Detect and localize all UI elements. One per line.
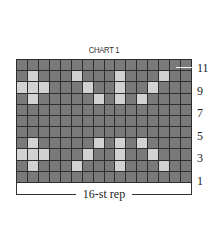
chart-cell — [170, 138, 180, 148]
chart-cell — [39, 149, 49, 159]
chart-cell — [50, 71, 60, 81]
chart-cell — [17, 127, 27, 137]
chart-cell — [28, 161, 38, 171]
chart-cell — [159, 94, 169, 104]
chart-cell — [72, 94, 82, 104]
chart-cell — [39, 116, 49, 126]
chart-cell — [72, 127, 82, 137]
chart-cell — [115, 82, 125, 92]
chart-cell — [126, 105, 136, 115]
chart-cell — [170, 127, 180, 137]
chart-cell — [83, 60, 93, 70]
chart-title: CHART 1 — [29, 45, 179, 55]
chart-cell — [28, 116, 38, 126]
row-label-9: 9 — [197, 85, 203, 97]
chart-cell — [148, 60, 158, 70]
chart-cell — [170, 161, 180, 171]
chart-cell — [50, 149, 60, 159]
chart-cell — [39, 127, 49, 137]
chart-cell — [170, 149, 180, 159]
chart-cell — [17, 138, 27, 148]
row-label-7: 7 — [197, 107, 203, 119]
chart-cell — [94, 82, 104, 92]
chart-cell — [137, 71, 147, 81]
chart-cell — [17, 94, 27, 104]
chart-cell — [159, 116, 169, 126]
chart-cell — [170, 172, 180, 182]
chart-cell — [159, 105, 169, 115]
chart-cell — [105, 82, 115, 92]
chart-cell — [61, 82, 71, 92]
chart-cell — [170, 94, 180, 104]
chart-cell — [61, 138, 71, 148]
chart-cell — [72, 138, 82, 148]
chart-cell — [181, 82, 191, 92]
chart-cell — [94, 71, 104, 81]
chart-cell — [159, 172, 169, 182]
chart-cell — [83, 94, 93, 104]
chart-cell — [137, 105, 147, 115]
chart-cell — [115, 94, 125, 104]
chart-cell — [159, 71, 169, 81]
chart-cell — [28, 127, 38, 137]
chart-cell — [126, 149, 136, 159]
chart-cell — [148, 138, 158, 148]
chart-cell — [137, 161, 147, 171]
chart-cell — [39, 82, 49, 92]
chart-cell — [148, 82, 158, 92]
chart-cell — [72, 161, 82, 171]
chart-cell — [94, 60, 104, 70]
chart-cell — [28, 60, 38, 70]
chart-cell — [50, 172, 60, 182]
chart-cell — [94, 116, 104, 126]
chart-cell — [105, 172, 115, 182]
chart-cell — [39, 172, 49, 182]
chart-cell — [83, 105, 93, 115]
chart-cell — [148, 149, 158, 159]
chart-cell — [17, 71, 27, 81]
chart-cell — [105, 149, 115, 159]
chart-cell — [115, 60, 125, 70]
chart-cell — [61, 94, 71, 104]
chart-cell — [83, 82, 93, 92]
chart-cell — [39, 60, 49, 70]
chart-cell — [61, 116, 71, 126]
chart-cell — [170, 60, 180, 70]
chart-cell — [137, 94, 147, 104]
repeat-label: 16-st rep — [16, 187, 192, 202]
chart-cell — [28, 71, 38, 81]
chart-cell — [159, 161, 169, 171]
chart-cell — [17, 172, 27, 182]
knitting-chart-grid — [16, 59, 192, 183]
chart-cell — [170, 105, 180, 115]
chart-cell — [105, 105, 115, 115]
chart-cell — [39, 71, 49, 81]
chart-cell — [61, 71, 71, 81]
chart-cell — [170, 116, 180, 126]
chart-cell — [94, 105, 104, 115]
chart-cell — [72, 71, 82, 81]
chart-cell — [105, 161, 115, 171]
chart-cell — [159, 82, 169, 92]
chart-cell — [72, 149, 82, 159]
chart-cell — [83, 161, 93, 171]
chart-cell — [17, 149, 27, 159]
chart-cell — [148, 105, 158, 115]
chart-cell — [28, 82, 38, 92]
chart-cell — [61, 127, 71, 137]
chart-cell — [181, 172, 191, 182]
chart-cell — [181, 60, 191, 70]
chart-cell — [137, 149, 147, 159]
chart-cell — [94, 138, 104, 148]
chart-cell — [72, 60, 82, 70]
chart-cell — [148, 161, 158, 171]
chart-cell — [137, 116, 147, 126]
chart-cell — [50, 161, 60, 171]
chart-cell — [50, 138, 60, 148]
chart-cell — [115, 161, 125, 171]
chart-cell — [159, 127, 169, 137]
chart-cell — [17, 60, 27, 70]
chart-cell — [181, 127, 191, 137]
chart-cell — [170, 82, 180, 92]
chart-cell — [181, 71, 191, 81]
